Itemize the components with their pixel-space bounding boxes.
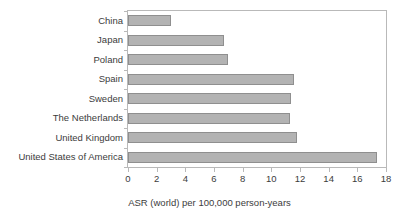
x-axis-tick-label: 12 bbox=[285, 173, 315, 184]
x-axis-tick-mark bbox=[271, 168, 272, 172]
bar-row bbox=[128, 11, 387, 31]
y-axis-tick-label-text: The Netherlands bbox=[53, 113, 123, 123]
x-axis-tick-label: 10 bbox=[256, 173, 286, 184]
bar bbox=[128, 93, 291, 104]
y-axis-tick-label: The Netherlands bbox=[0, 109, 123, 129]
y-axis-tick-mark bbox=[124, 148, 128, 149]
y-axis-tick-mark bbox=[124, 89, 128, 90]
x-axis-tick-mark bbox=[128, 168, 129, 172]
x-axis-tick-label: 18 bbox=[371, 173, 401, 184]
y-axis-tick-mark bbox=[124, 31, 128, 32]
y-axis-tick-label-text: Poland bbox=[93, 55, 123, 65]
bar bbox=[128, 74, 294, 85]
x-axis-tick-label: 14 bbox=[314, 173, 344, 184]
bar bbox=[128, 113, 290, 124]
y-axis-tick-label: Japan bbox=[0, 31, 123, 51]
x-axis-tick-label: 6 bbox=[199, 173, 229, 184]
y-axis-tick-label: United Kingdom bbox=[0, 128, 123, 148]
bar-row bbox=[128, 70, 387, 90]
x-axis-tick-label: 2 bbox=[142, 173, 172, 184]
y-axis-tick-mark bbox=[124, 167, 128, 168]
y-axis-tick-label: Spain bbox=[0, 70, 123, 90]
x-axis-tick-label: 4 bbox=[170, 173, 200, 184]
y-axis-tick-mark bbox=[124, 50, 128, 51]
bar-row bbox=[128, 89, 387, 109]
bar-row bbox=[128, 109, 387, 129]
bar-row bbox=[128, 50, 387, 70]
x-axis-tick-label: 8 bbox=[228, 173, 258, 184]
x-axis-tick-mark bbox=[214, 168, 215, 172]
y-axis-tick-label: China bbox=[0, 11, 123, 31]
x-axis-tick-mark bbox=[157, 168, 158, 172]
y-axis-tick-mark bbox=[124, 11, 128, 12]
y-axis-tick-label-text: United States of America bbox=[18, 152, 123, 162]
y-axis-tick-label-text: China bbox=[98, 16, 123, 26]
y-axis-tick-label-text: Sweden bbox=[89, 94, 123, 104]
y-axis-tick-label-text: United Kingdom bbox=[55, 133, 123, 143]
y-axis-tick-label-text: Japan bbox=[97, 35, 123, 45]
bar bbox=[128, 152, 377, 163]
y-axis-tick-mark bbox=[124, 109, 128, 110]
bar bbox=[128, 54, 228, 65]
x-axis-tick-label: 16 bbox=[342, 173, 372, 184]
y-axis-tick-mark bbox=[124, 70, 128, 71]
bar bbox=[128, 35, 224, 46]
y-axis-tick-label: Poland bbox=[0, 50, 123, 70]
x-axis-tick-mark bbox=[185, 168, 186, 172]
bar-chart: ChinaJapanPolandSpainSwedenThe Netherlan… bbox=[0, 0, 419, 219]
x-axis-tick-mark bbox=[357, 168, 358, 172]
bar-row bbox=[128, 148, 387, 168]
bar-row bbox=[128, 128, 387, 148]
y-axis-tick-mark bbox=[124, 128, 128, 129]
bar-row bbox=[128, 31, 387, 51]
x-axis-tick-mark bbox=[300, 168, 301, 172]
bar bbox=[128, 132, 297, 143]
y-axis-labels: ChinaJapanPolandSpainSwedenThe Netherlan… bbox=[0, 11, 123, 167]
x-axis-tick-mark bbox=[386, 168, 387, 172]
x-axis-title: ASR (world) per 100,000 person-years bbox=[0, 197, 419, 208]
bar bbox=[128, 15, 171, 26]
x-axis-tick-label: 0 bbox=[113, 173, 143, 184]
y-axis-tick-label: United States of America bbox=[0, 148, 123, 168]
x-axis-tick-mark bbox=[243, 168, 244, 172]
x-axis-tick-mark bbox=[329, 168, 330, 172]
bars-container bbox=[128, 11, 387, 167]
y-axis-tick-label: Sweden bbox=[0, 89, 123, 109]
y-axis-tick-label-text: Spain bbox=[99, 74, 123, 84]
